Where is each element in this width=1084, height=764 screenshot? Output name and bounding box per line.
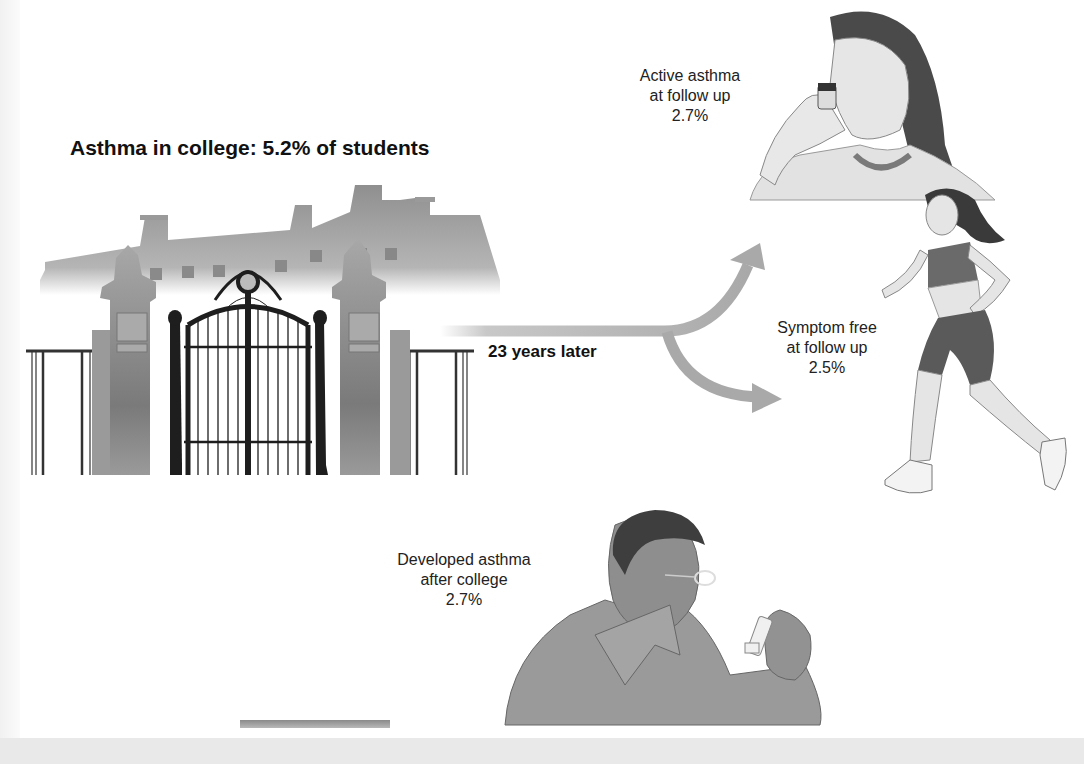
man-inhaler-illustration [495,505,825,730]
outcome-developed-asthma: Developed asthma after college 2.7% [384,550,544,610]
branching-arrows [430,225,790,425]
outcome-symptom-free: Symptom free at follow up 2.5% [752,318,902,378]
shoe-back [1040,438,1066,490]
shoe-front [885,460,932,493]
leg-front [910,370,942,462]
arrow-head-right [752,383,782,413]
bottom-shadow-strip [240,720,390,728]
left-edge-margin [0,0,20,740]
bottom-band [0,738,1084,764]
arrow-shaft-down [667,332,760,397]
transition-label: 23 years later [488,342,597,362]
arrow-shaft-main [440,265,748,331]
iron-gate-icon [168,272,328,475]
head [926,195,958,235]
leg-back [970,380,1050,455]
arm-left [882,250,928,298]
outcome-active-asthma: Active asthma at follow up 2.7% [620,66,760,126]
figure-title: Asthma in college: 5.2% of students [70,136,429,160]
college-gate-illustration [20,170,500,490]
